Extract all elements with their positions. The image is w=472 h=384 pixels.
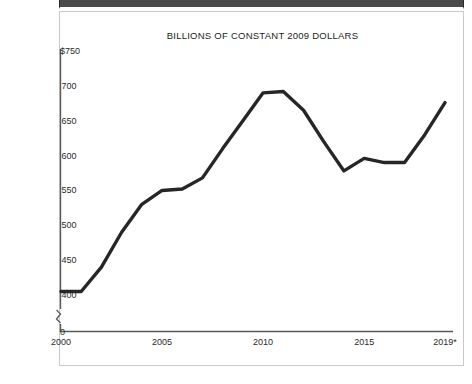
axis-break-symbol [57, 310, 61, 323]
y-tick-label: 700 [60, 81, 77, 91]
x-tick-label: 2005 [152, 337, 172, 347]
x-tick-label: 2010 [253, 337, 273, 347]
chart-page: BILLIONS OF CONSTANT 2009 DOLLARS 400450… [0, 0, 472, 384]
y-tick-label: 400 [60, 290, 77, 300]
x-tick-label: 2019* [433, 337, 457, 347]
x-tick-label: 2015 [354, 337, 374, 347]
x-tick-label: 2000 [51, 337, 71, 347]
y-tick-label: 550 [60, 185, 77, 195]
y-tick-label: 500 [60, 220, 77, 230]
y-tick-label: 600 [60, 151, 77, 161]
y-tick-label: 450 [60, 255, 77, 265]
y-tick-label-zero: 0 [60, 327, 65, 337]
data-series-line [61, 91, 445, 291]
y-tick-label: 650 [60, 116, 77, 126]
chart-card: BILLIONS OF CONSTANT 2009 DOLLARS 400450… [59, 11, 464, 366]
y-tick-label: $750 [60, 46, 77, 56]
